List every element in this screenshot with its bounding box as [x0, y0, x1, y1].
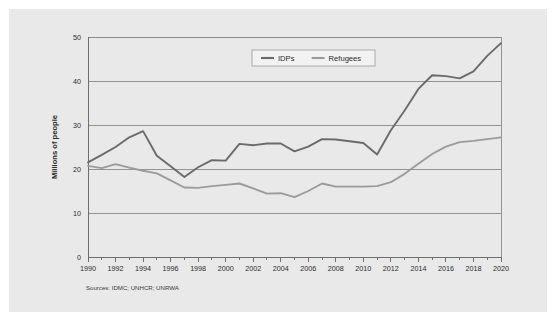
- x-tick-label-1990: 1990: [80, 264, 96, 273]
- y-tick-label-20: 20: [73, 165, 81, 174]
- x-tick-label-1998: 1998: [190, 264, 206, 273]
- y-tick-label-50: 50: [73, 33, 81, 42]
- chart-figure: 0102030405019901992199419961998200020022…: [9, 9, 547, 312]
- x-tick-label-2016: 2016: [438, 264, 454, 273]
- y-axis-title: Millions of people: [50, 115, 59, 179]
- x-tick-label-2008: 2008: [328, 264, 344, 273]
- y-tick-label-30: 30: [73, 121, 81, 130]
- x-tick-label-2010: 2010: [355, 264, 371, 273]
- legend-label-idps: IDPs: [278, 54, 295, 63]
- legend-label-refugees: Refugees: [329, 54, 362, 63]
- x-tick-label-2018: 2018: [465, 264, 481, 273]
- series-line-refugees: [88, 137, 501, 197]
- y-tick-label-0: 0: [77, 253, 81, 262]
- x-tick-label-2004: 2004: [273, 264, 289, 273]
- x-tick-label-2014: 2014: [410, 264, 426, 273]
- x-tick-label-1992: 1992: [108, 264, 124, 273]
- x-tick-label-2006: 2006: [300, 264, 316, 273]
- x-tick-label-2020: 2020: [493, 264, 509, 273]
- x-tick-label-1996: 1996: [163, 264, 179, 273]
- x-tick-label-2012: 2012: [383, 264, 399, 273]
- x-tick-label-2002: 2002: [245, 264, 261, 273]
- x-tick-label-1994: 1994: [135, 264, 151, 273]
- y-tick-label-40: 40: [73, 77, 81, 86]
- source-note: Sources: IDMC; UNHCR; UNRWA: [86, 284, 180, 291]
- y-tick-label-10: 10: [73, 209, 81, 218]
- line-chart: 0102030405019901992199419961998200020022…: [9, 9, 547, 312]
- x-tick-label-2000: 2000: [218, 264, 234, 273]
